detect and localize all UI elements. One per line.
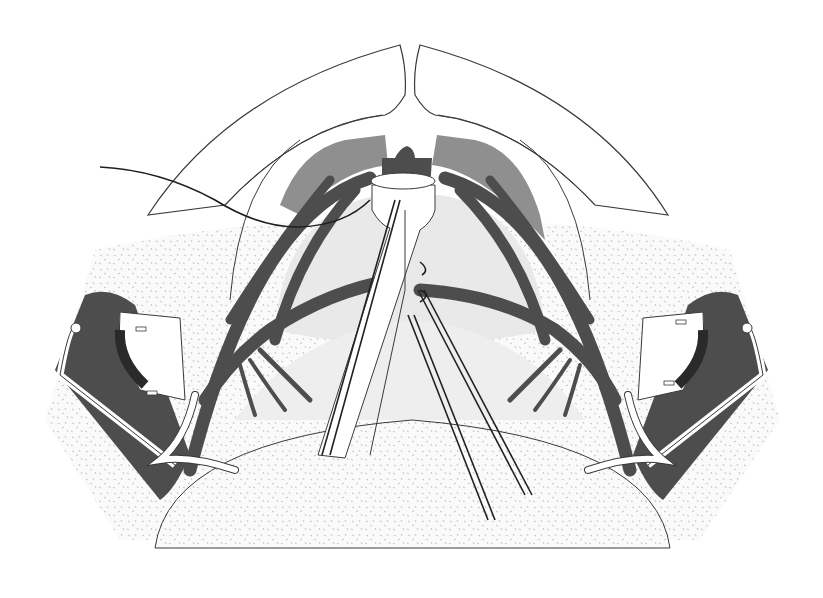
illustration-canvas (0, 0, 823, 598)
anatomical-diagram (0, 0, 823, 598)
